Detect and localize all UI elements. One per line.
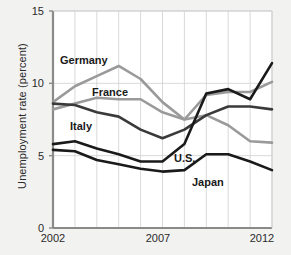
series-label-japan: Japan — [192, 176, 224, 188]
series-label-france: France — [92, 86, 128, 98]
unemployment-rate-line-chart: Unemployment rate (percent) 15 10 5 0 20… — [0, 0, 291, 255]
series-label-germany: Germany — [60, 54, 108, 66]
plot-area — [0, 0, 291, 255]
series-label-us: U.S. — [174, 152, 195, 164]
series-label-italy: Italy — [70, 120, 92, 132]
